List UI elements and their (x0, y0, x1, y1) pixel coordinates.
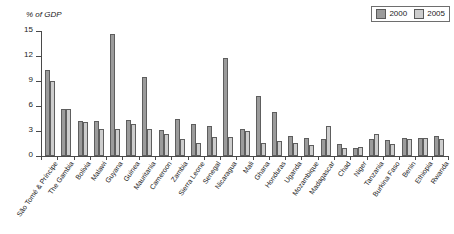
bar-group (123, 31, 139, 156)
y-tick-label-12: 12 (24, 51, 33, 59)
bar-group (91, 31, 107, 156)
bar-2005[interactable] (212, 137, 217, 156)
bar-2005[interactable] (83, 122, 88, 156)
bar-group (74, 31, 90, 156)
bar-2005[interactable] (228, 137, 233, 156)
bar-2005[interactable] (245, 131, 250, 156)
chart-legend: 2000 2005 (371, 6, 450, 22)
bar-group (269, 31, 285, 156)
x-tick (448, 156, 449, 160)
y-tick-label-15: 15 (24, 26, 33, 34)
bar-2005[interactable] (164, 134, 169, 157)
bar-group (253, 31, 269, 156)
y-tick-label-6: 6 (29, 101, 33, 109)
bar-2005[interactable] (261, 143, 266, 156)
bar-2005[interactable] (180, 139, 185, 157)
legend-label-2005: 2005 (427, 10, 445, 18)
bar-group (301, 31, 317, 156)
bar-group (431, 31, 447, 156)
bar-2005[interactable] (358, 147, 363, 156)
bar-2005[interactable] (99, 129, 104, 157)
bar-2005[interactable] (374, 134, 379, 156)
bar-2005[interactable] (115, 129, 120, 156)
y-tick-6: 6 (36, 106, 41, 107)
bar-group (415, 31, 431, 156)
x-axis-label: Niger (353, 160, 368, 178)
bar-2005[interactable] (147, 129, 152, 156)
y-tick-label-3: 3 (29, 126, 33, 134)
bar-group (317, 31, 333, 156)
legend-item-2005[interactable]: 2005 (414, 9, 445, 19)
legend-swatch-2000 (376, 9, 386, 19)
bar-2005[interactable] (342, 148, 347, 156)
bar-group (398, 31, 414, 156)
plot-area (42, 31, 447, 156)
y-tick-label-0: 0 (29, 151, 33, 159)
bar-2005[interactable] (423, 138, 428, 156)
bar-2005[interactable] (439, 139, 444, 157)
bar-group (382, 31, 398, 156)
bar-2005[interactable] (326, 126, 331, 156)
x-axis-label: Chad (337, 160, 352, 178)
bar-series-container (42, 31, 447, 156)
bar-2005[interactable] (131, 124, 136, 157)
bar-group (58, 31, 74, 156)
bar-group (220, 31, 236, 156)
x-axis-label: Benin (401, 160, 417, 179)
bar-group (204, 31, 220, 156)
bar-group (139, 31, 155, 156)
bar-group (42, 31, 58, 156)
bar-2005[interactable] (309, 145, 314, 156)
bar-2005[interactable] (277, 141, 282, 156)
bar-2005[interactable] (390, 144, 395, 157)
y-tick-15: 15 (36, 31, 41, 32)
y-tick-9: 9 (36, 81, 41, 82)
bar-2005[interactable] (407, 139, 412, 156)
bar-group (188, 31, 204, 156)
x-axis-labels: São Tomé & PríncipeThe GambiaBoliviaMala… (41, 160, 448, 234)
y-tick-12: 12 (36, 56, 41, 57)
y-tick-label-9: 9 (29, 76, 33, 84)
bar-2005[interactable] (50, 81, 55, 156)
legend-label-2000: 2000 (389, 10, 407, 18)
bar-2005[interactable] (293, 143, 298, 156)
bar-group (236, 31, 252, 156)
bar-group (172, 31, 188, 156)
bar-group (334, 31, 350, 156)
legend-swatch-2005 (414, 9, 424, 19)
y-axis-title: % of GDP (26, 10, 62, 19)
bar-2005[interactable] (66, 109, 71, 156)
bar-chart: % of GDP 2000 2005 03691215 São Tomé & P… (0, 0, 454, 234)
bar-group (155, 31, 171, 156)
bar-group (366, 31, 382, 156)
y-tick-3: 3 (36, 131, 41, 132)
bar-group (350, 31, 366, 156)
bar-group (107, 31, 123, 156)
bar-2005[interactable] (196, 143, 201, 156)
legend-item-2000[interactable]: 2000 (376, 9, 407, 19)
bar-group (285, 31, 301, 156)
x-axis-label: Mali (241, 160, 254, 175)
